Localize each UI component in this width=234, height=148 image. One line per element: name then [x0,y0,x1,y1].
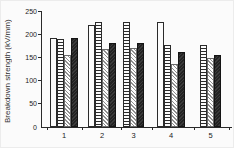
y-tick-mark [38,57,41,58]
y-tick-mark [38,80,41,81]
y-tick-label: 250 [14,7,37,16]
x-tick-mark [194,127,195,130]
open-white-bar [50,38,57,127]
horizontal-stripe-bar [164,45,171,127]
x-tick-mark [82,127,83,130]
y-tick-label: 200 [14,30,37,39]
y-tick-label: 50 [14,99,37,108]
open-white-bar [157,22,164,127]
bar-group-2 [88,22,116,127]
diagonal-hatch-bar [102,49,109,127]
horizontal-stripe-bar [200,45,207,127]
y-tick-mark [38,11,41,12]
x-tick-label: 3 [124,131,144,140]
diagonal-hatch-bar [130,48,137,127]
x-tick-mark [47,127,48,130]
horizontal-stripe-bar [57,39,64,127]
y-tick-label: 0 [14,123,37,132]
y-tick-mark [38,103,41,104]
x-tick-mark [229,127,230,130]
horizontal-stripe-bar [123,22,130,127]
x-tick-mark [152,127,153,130]
horizontal-stripe-bar [95,22,102,127]
solid-dark-bar [71,38,78,127]
solid-dark-bar [214,55,221,127]
diagonal-hatch-bar [207,58,214,127]
plot-area: 12345 [41,11,232,128]
chart: Breakdown strength (kV/mm) 12345 0501001… [0,0,234,148]
x-tick-label: 4 [161,131,181,140]
solid-dark-bar [178,52,185,127]
bar-group-3 [123,22,144,127]
y-tick-mark [38,34,41,35]
y-axis-label: Breakdown strength (kV/mm) [3,7,13,135]
diagonal-hatch-bar [64,55,71,127]
bar-group-4 [157,22,185,127]
solid-dark-bar [109,43,116,127]
x-tick-mark [121,127,122,130]
open-white-bar [88,25,95,127]
y-tick-label: 150 [14,53,37,62]
diagonal-hatch-bar [171,64,178,127]
x-tick-label: 5 [201,131,221,140]
x-tick-label: 2 [92,131,112,140]
bar-group-5 [200,45,221,127]
solid-dark-bar [137,43,144,127]
x-tick-label: 1 [54,131,74,140]
bar-group-1 [50,38,78,127]
y-tick-label: 100 [14,76,37,85]
